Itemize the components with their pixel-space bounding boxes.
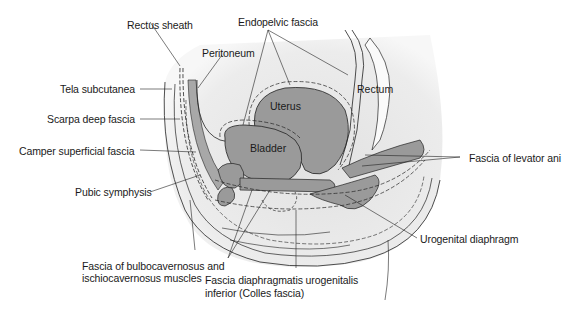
pelvic-fascia-diagram: Uterus Bladder Rectum Rectus sheath Endo… <box>0 0 575 312</box>
bladder-label: Bladder <box>250 142 286 154</box>
colles-fascia-label-2: inferior (Colles fascia) <box>205 287 304 299</box>
bulbocavernosus-fascia-label-2: ischiocavernosus muscles <box>82 272 202 284</box>
urogenital-diaphragm-label: Urogenital diaphragm <box>420 233 518 245</box>
pubic-symphysis-label: Pubic symphysis <box>75 186 152 198</box>
colles-fascia-label-1: Fascia diaphragmatis urogenitalis <box>205 274 358 286</box>
peritoneum-label: Peritoneum <box>202 47 255 59</box>
rectum-label: Rectum <box>357 83 393 95</box>
camper-superficial-fascia-label: Camper superficial fascia <box>19 145 134 157</box>
scarpa-deep-fascia-label: Scarpa deep fascia <box>47 113 135 125</box>
rectus-sheath-label: Rectus sheath <box>127 19 193 31</box>
uterus-label: Uterus <box>270 100 301 112</box>
bulbocavernosus-fascia-label-1: Fascia of bulbocavernosus and <box>82 260 224 272</box>
tela-subcutanea-label: Tela subcutanea <box>60 83 135 95</box>
fascia-levator-ani-label: Fascia of levator ani <box>469 152 561 164</box>
endopelvic-fascia-label: Endopelvic fascia <box>238 16 318 28</box>
